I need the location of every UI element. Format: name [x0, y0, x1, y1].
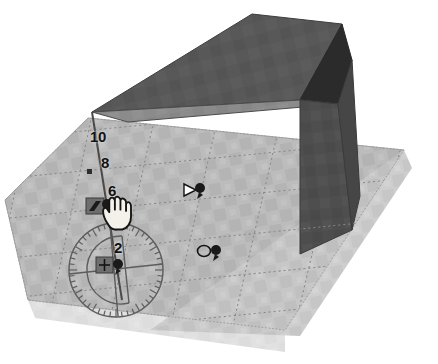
marker-layer[interactable]	[0, 0, 438, 364]
scene-stage: 10 8 6 4 2	[0, 0, 438, 364]
pin-icon-move[interactable]	[113, 259, 123, 275]
modeling-viewport[interactable]: 10 8 6 4 2	[0, 0, 438, 364]
inference-marker-move[interactable]	[96, 257, 113, 273]
inference-marker-center[interactable]	[198, 246, 211, 257]
pin-icon-midpoint[interactable]	[195, 183, 205, 199]
inference-marker-midpoint[interactable]	[184, 184, 196, 196]
pin-icon-center[interactable]	[211, 245, 221, 261]
inference-marker-endpoint[interactable]	[86, 198, 104, 214]
